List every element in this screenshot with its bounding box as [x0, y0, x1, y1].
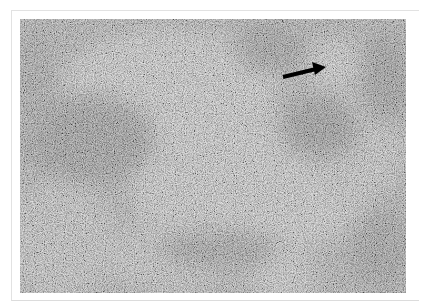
- micrograph-image: [20, 19, 406, 293]
